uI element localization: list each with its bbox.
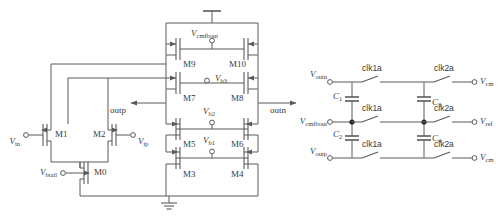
label-vcm-bot: Vcm bbox=[480, 153, 493, 163]
schematic-svg bbox=[0, 0, 501, 224]
label-M1: M1 bbox=[55, 130, 68, 139]
cmfb-right-terminals bbox=[472, 80, 477, 161]
label-M9: M9 bbox=[183, 60, 196, 69]
schematic-figure: M9 M10 M7 M8 M5 M6 M3 M4 M1 M2 M0 Vcmfbo… bbox=[0, 0, 501, 224]
vdd-rail bbox=[166, 11, 258, 23]
tail-source bbox=[61, 162, 90, 196]
label-voutp: Voutp bbox=[310, 147, 327, 157]
label-M3: M3 bbox=[183, 170, 196, 179]
label-vip: Vip bbox=[138, 137, 149, 147]
label-M6: M6 bbox=[231, 140, 244, 149]
label-clk1a-middle: clk1a bbox=[362, 104, 382, 113]
cascode-lower-branch bbox=[166, 147, 258, 196]
label-clk2a-middle: clk2a bbox=[434, 104, 454, 113]
label-clk1a-bottom: clk1a bbox=[362, 140, 382, 149]
label-C2: C2 bbox=[333, 130, 342, 140]
label-vref: Vref bbox=[480, 117, 493, 127]
label-clk1a-top: clk1a bbox=[362, 64, 382, 73]
label-M5: M5 bbox=[183, 140, 196, 149]
label-vb3: Vb3 bbox=[215, 74, 227, 84]
input-pair bbox=[24, 78, 136, 162]
label-vcm-top: Vcm bbox=[480, 77, 493, 87]
label-vb2: Vb2 bbox=[203, 107, 215, 117]
label-clk2a-bottom: clk2a bbox=[434, 140, 454, 149]
label-M4: M4 bbox=[231, 170, 244, 179]
label-vin: Vin bbox=[9, 137, 20, 147]
label-clk2a-top: clk2a bbox=[434, 64, 454, 73]
label-vb1: Vb1 bbox=[203, 136, 215, 146]
ground bbox=[80, 196, 258, 209]
label-outp: outp bbox=[110, 106, 126, 115]
capacitor-column-left bbox=[345, 82, 359, 158]
capacitor-column-right bbox=[417, 82, 431, 158]
label-vbtail: Vbtail bbox=[40, 168, 57, 178]
label-vcmfbout-bias: Vcmfbout bbox=[191, 29, 218, 39]
label-M8: M8 bbox=[231, 94, 244, 103]
label-C1: C1 bbox=[333, 92, 342, 102]
label-vcmfbout: Vcmfbout bbox=[300, 117, 327, 127]
label-M2: M2 bbox=[93, 130, 106, 139]
label-outn: outn bbox=[270, 106, 286, 115]
label-M7: M7 bbox=[183, 94, 196, 103]
label-M10: M10 bbox=[229, 60, 246, 69]
label-M0: M0 bbox=[94, 168, 107, 177]
label-voutn: Voutn bbox=[310, 70, 327, 80]
pmos-cascode-branch bbox=[166, 72, 258, 110]
